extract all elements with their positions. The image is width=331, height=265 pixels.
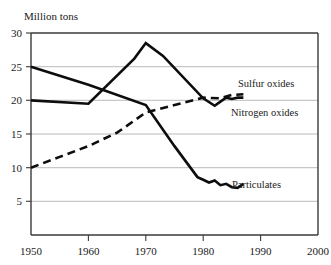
series-label-sulfur-oxides: Sulfur oxides: [238, 78, 294, 89]
y-tick-label-30: 30: [11, 27, 23, 39]
x-tick-label-1960: 1960: [77, 245, 100, 257]
x-tick-label-1980: 1980: [192, 245, 215, 257]
y-tick-label-5: 5: [17, 195, 23, 207]
x-tick-label-1990: 1990: [250, 245, 273, 257]
series-label-nitrogen-oxides: Nitrogen oxides: [231, 107, 298, 118]
x-tickmarks: [88, 235, 260, 241]
line-chart-canvas: Million tons 30 25 20 15 10 5 1950 1960 …: [0, 0, 331, 265]
y-tick-label-25: 25: [11, 61, 23, 73]
y-tick-label-10: 10: [11, 162, 23, 174]
x-tick-label-2000: 2000: [307, 245, 330, 257]
x-tick-label-1950: 1950: [20, 245, 43, 257]
chart-figure: Million tons 30 25 20 15 10 5 1950 1960 …: [0, 0, 331, 265]
y-tick-label-15: 15: [11, 128, 23, 140]
series-label-particulates: Particulates: [232, 179, 281, 190]
y-axis-title: Million tons: [24, 10, 78, 22]
x-tick-label-1970: 1970: [135, 245, 158, 257]
y-tick-label-20: 20: [11, 94, 23, 106]
y-tickmarks: [26, 33, 31, 201]
